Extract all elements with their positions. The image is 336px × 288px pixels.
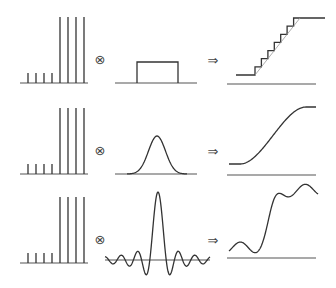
ramp-guide-line [255, 18, 300, 75]
ringing-step-result-curve [229, 184, 318, 252]
smooth-step-result-curve [229, 107, 316, 164]
row-box-kernel: ⊗⇒ [20, 17, 325, 84]
convolve-symbol: ⊗ [95, 52, 106, 67]
implies-arrow: ⇒ [208, 53, 219, 68]
convolve-symbol: ⊗ [95, 143, 106, 158]
implies-arrow: ⇒ [208, 233, 219, 248]
convolve-symbol: ⊗ [95, 232, 106, 247]
row-sinc-kernel: ⊗⇒ [20, 184, 318, 274]
box-kernel-curve [137, 62, 178, 83]
row-gaussian-kernel: ⊗⇒ [20, 107, 316, 175]
staircase-result-curve [236, 18, 325, 75]
implies-arrow: ⇒ [208, 144, 219, 159]
gaussian-kernel-curve [127, 136, 187, 174]
sinc-kernel-curve [105, 192, 210, 275]
convolution-diagram: ⊗⇒⊗⇒⊗⇒ [0, 0, 336, 288]
